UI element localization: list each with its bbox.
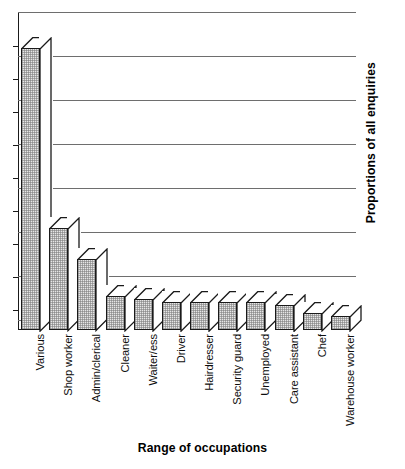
y-axis-title: Proportions of all enquiries xyxy=(364,62,378,223)
bar-11 xyxy=(303,302,333,330)
bar-front-face xyxy=(190,302,209,330)
bar-1 xyxy=(21,37,51,330)
bar-side-face xyxy=(349,305,363,332)
bar-5 xyxy=(134,288,164,330)
category-label: Waiter/ess xyxy=(148,334,159,385)
category-label: Various xyxy=(35,334,46,370)
category-label: Chef xyxy=(317,334,328,357)
category-label: Driver xyxy=(176,334,187,363)
category-label: Hairdresser xyxy=(204,334,215,391)
bar-front-face xyxy=(275,305,294,330)
bar-front-face xyxy=(303,313,322,330)
bar-4 xyxy=(106,285,136,330)
bar-10 xyxy=(275,294,305,330)
bar-3 xyxy=(77,248,107,330)
bar-12 xyxy=(331,305,361,330)
bar-chart: VariousShop workerAdmin/clericalCleanerW… xyxy=(0,0,405,469)
category-label: Shop worker xyxy=(63,334,74,396)
bar-front-face xyxy=(246,302,265,330)
bars-group xyxy=(18,12,356,330)
bar-front-face xyxy=(218,302,237,330)
category-label: Unemployed xyxy=(260,334,271,396)
bar-front-face xyxy=(106,296,125,330)
bar-9 xyxy=(246,291,276,330)
bar-front-face xyxy=(77,259,96,330)
bar-front-face xyxy=(134,299,153,330)
bar-front-face xyxy=(162,302,181,330)
x-axis-title: Range of occupations xyxy=(0,441,405,455)
bar-7 xyxy=(190,291,220,330)
bar-2 xyxy=(49,217,79,330)
category-labels-group: VariousShop workerAdmin/clericalCleanerW… xyxy=(18,334,356,452)
category-label: Admin/clerical xyxy=(91,334,102,402)
category-label: Cleaner xyxy=(120,334,131,372)
bar-front-face xyxy=(49,228,68,330)
category-label: Care assistant xyxy=(289,334,300,404)
category-label: Security guard xyxy=(232,334,243,405)
bar-front-face xyxy=(21,48,40,330)
plot-area xyxy=(18,12,356,330)
bar-8 xyxy=(218,291,248,330)
bar-front-face xyxy=(331,316,350,330)
category-label: Warehouse worker xyxy=(345,334,356,426)
bar-6 xyxy=(162,291,192,330)
